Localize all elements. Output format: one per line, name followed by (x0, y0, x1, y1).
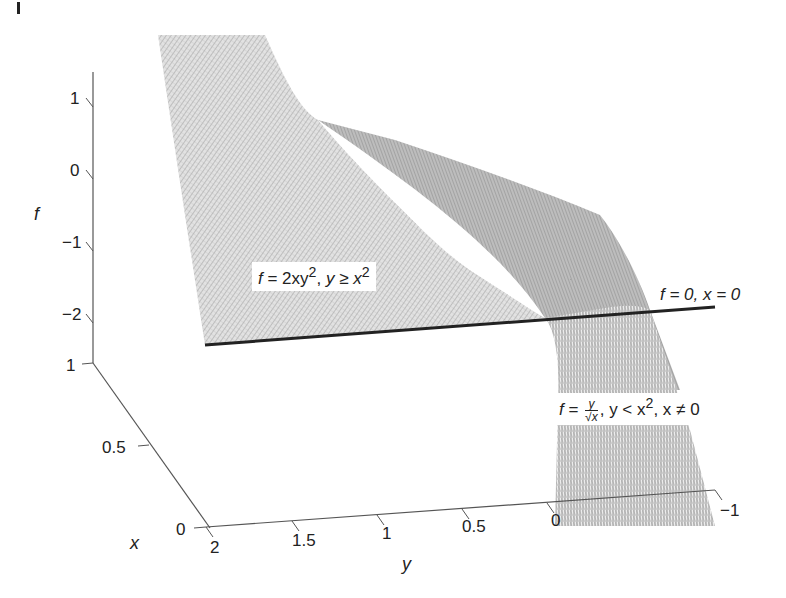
annotation-lower-surface: f = y√x, y < x2, x ≠ 0 (553, 393, 706, 425)
f-tick-0: 0 (70, 161, 79, 180)
y-tick-1: 1 (382, 524, 391, 543)
y-tick-1-5: 1.5 (292, 531, 316, 550)
x-axis-label: x (129, 533, 140, 553)
y-tick-2: 2 (210, 538, 219, 557)
x-tick-1: 1 (66, 356, 75, 375)
f-tick-1: 1 (70, 89, 79, 108)
y-tick-0: 0 (551, 511, 560, 530)
f-axis-ticks (86, 98, 93, 323)
f-tick-neg2: −2 (62, 305, 81, 324)
y-tick-0-5: 0.5 (462, 517, 486, 536)
f-axis-label: f (34, 204, 41, 224)
fraction-y-over-sqrt-x: y√x (585, 398, 598, 423)
x-axis-ticks (82, 363, 206, 528)
f-tick-neg1: −1 (62, 233, 81, 252)
y-axis-label: y (400, 554, 412, 574)
annotation-zero-line: f = 0, x = 0 (660, 285, 740, 305)
x-tick-0-5: 0.5 (102, 438, 126, 457)
x-tick-0: 0 (176, 520, 185, 539)
y-tick-neg1: −1 (720, 501, 739, 520)
annotation-upper-surface: f = 2xy2, y ≥ x2 (252, 262, 376, 291)
